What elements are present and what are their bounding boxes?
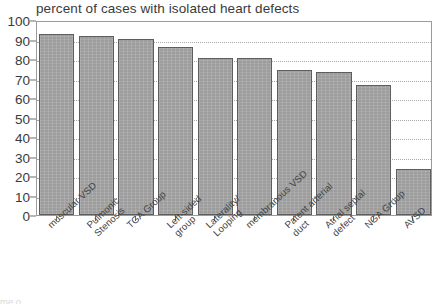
y-tick-label-40: 40 <box>15 131 30 146</box>
y-tick-label-0: 0 <box>22 209 30 224</box>
y-tick-label-100: 100 <box>7 14 30 29</box>
bar <box>39 34 74 215</box>
bar-chart-figure: percent of cases with isolated heart def… <box>0 0 438 304</box>
y-tick-label-10: 10 <box>15 189 30 204</box>
bar <box>158 47 193 215</box>
bar <box>198 58 233 215</box>
chart-title: percent of cases with isolated heart def… <box>36 1 299 16</box>
y-tick-label-60: 60 <box>15 92 30 107</box>
bar <box>237 58 272 215</box>
y-tick-label-50: 50 <box>15 111 30 126</box>
bottom-cutoff-text: me o <box>0 296 438 304</box>
y-tick-label-90: 90 <box>15 33 30 48</box>
x-axis: muscular VSDPulmonicStenosisTGA GroupLef… <box>36 216 432 304</box>
y-tick-label-80: 80 <box>15 53 30 68</box>
bar <box>118 39 153 215</box>
y-tick-label-20: 20 <box>15 170 30 185</box>
y-tick-label-30: 30 <box>15 150 30 165</box>
y-tick-label-70: 70 <box>15 72 30 87</box>
y-axis: 1009080706050403020100 <box>0 21 30 216</box>
